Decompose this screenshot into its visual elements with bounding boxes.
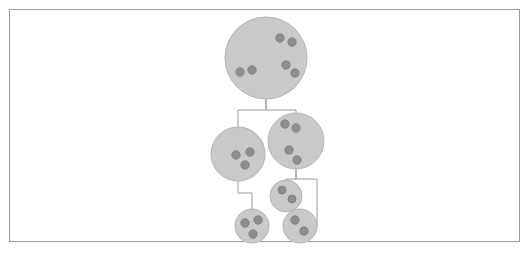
mid-right-cell-dot-4 (293, 156, 301, 164)
mid-left-cell-dot-3 (241, 161, 249, 169)
mid-right-cell-dot-2 (292, 124, 300, 132)
root-cell-dot-5 (236, 68, 244, 76)
small-bottom-right-cell-group[interactable] (283, 209, 317, 243)
lineage-diagram-svg (0, 0, 530, 256)
root-cell[interactable] (225, 17, 307, 99)
small-bottom-left-cell-dot-1 (241, 219, 249, 227)
small-upper-right-cell-group[interactable] (270, 180, 302, 212)
figure-root (0, 0, 530, 256)
root-cell-group[interactable] (225, 17, 307, 99)
mid-right-cell-dot-1 (281, 120, 289, 128)
small-bottom-left-cell-dot-2 (254, 216, 262, 224)
small-upper-right-cell[interactable] (270, 180, 302, 212)
mid-left-cell-dot-2 (246, 148, 254, 156)
root-cell-dot-6 (248, 66, 256, 74)
small-bottom-left-cell-dot-3 (249, 230, 257, 238)
mid-right-cell-dot-3 (285, 146, 293, 154)
root-cell-dot-1 (276, 34, 284, 42)
root-cell-dot-2 (288, 38, 296, 46)
root-cell-dot-4 (291, 69, 299, 77)
small-upper-right-cell-dot-1 (278, 186, 286, 194)
mid-left-cell-group[interactable] (211, 127, 265, 181)
small-upper-right-cell-dot-2 (288, 195, 296, 203)
mid-right-cell-group[interactable] (268, 113, 324, 169)
small-bottom-right-cell-dot-1 (291, 216, 299, 224)
small-bottom-right-cell[interactable] (283, 209, 317, 243)
mid-left-cell-dot-1 (232, 151, 240, 159)
small-bottom-left-cell-group[interactable] (235, 209, 269, 243)
root-cell-dot-3 (282, 61, 290, 69)
small-bottom-right-cell-dot-2 (300, 227, 308, 235)
